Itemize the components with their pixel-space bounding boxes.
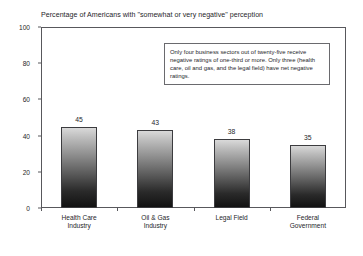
- x-tick-mark: [270, 208, 271, 211]
- x-category-line: Health Care: [62, 214, 97, 222]
- x-category-line: Legal Field: [215, 214, 247, 222]
- x-category-line: Industry: [141, 222, 169, 230]
- y-tick-label: 60: [23, 96, 30, 103]
- x-category-line: Government: [290, 222, 326, 230]
- bar: [61, 127, 97, 208]
- bar-chart: Percentage of Americans with "somewhat o…: [0, 0, 363, 256]
- y-tick-label: 100: [19, 24, 30, 31]
- x-category-label: Health CareIndustry: [62, 214, 97, 231]
- y-tick-mark: [38, 99, 41, 100]
- x-category-line: Federal: [290, 214, 326, 222]
- y-tick-mark: [38, 171, 41, 172]
- bar: [137, 130, 173, 208]
- x-category-line: Oil & Gas: [141, 214, 169, 222]
- bar-value-label: 38: [228, 128, 236, 135]
- x-tick-mark: [117, 208, 118, 211]
- y-tick-label: 0: [26, 205, 30, 212]
- y-tick-label: 40: [23, 132, 30, 139]
- bar-value-label: 43: [152, 119, 160, 126]
- x-category-label: Oil & GasIndustry: [141, 214, 169, 231]
- bar-value-label: 45: [75, 116, 83, 123]
- chart-title: Percentage of Americans with "somewhat o…: [41, 11, 263, 19]
- y-tick-mark: [38, 27, 41, 28]
- annotation-note: Only four business sectors out of twenty…: [164, 43, 330, 85]
- y-tick-label: 80: [23, 60, 30, 67]
- bar: [290, 145, 326, 208]
- x-category-label: Legal Field: [215, 214, 247, 222]
- y-tick-mark: [38, 135, 41, 136]
- y-axis: 020406080100: [0, 27, 36, 208]
- y-tick-mark: [38, 63, 41, 64]
- x-tick-mark: [41, 208, 42, 211]
- x-category-label: FederalGovernment: [290, 214, 326, 231]
- x-category-line: Industry: [62, 222, 97, 230]
- x-tick-mark: [194, 208, 195, 211]
- bar: [214, 139, 250, 208]
- bar-value-label: 35: [304, 134, 312, 141]
- y-tick-label: 20: [23, 168, 30, 175]
